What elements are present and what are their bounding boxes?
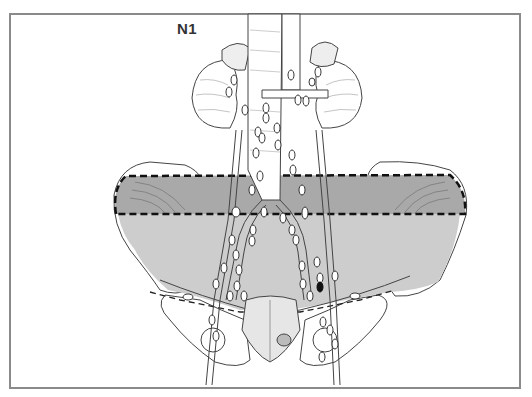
bladder [242,296,300,362]
positive-lymph-node [317,282,323,292]
anatomy-illustration [0,0,532,397]
upper-zone [115,175,465,214]
